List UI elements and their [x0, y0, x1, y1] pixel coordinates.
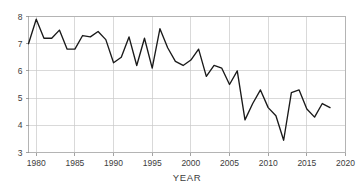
y-tick-label: 8 — [18, 12, 23, 22]
x-axis-tick-labels: 198019851990199520002005201020152020 — [27, 158, 355, 168]
horizontal-gridlines — [29, 17, 346, 126]
line-chart: 345678 198019851990199520002005201020152… — [0, 0, 360, 188]
y-axis-tick-labels: 345678 — [18, 12, 23, 158]
x-tick-label: 2015 — [297, 158, 316, 168]
data-series-line — [29, 19, 331, 140]
y-tick-label: 4 — [18, 120, 23, 130]
y-tick-label: 7 — [18, 39, 23, 49]
x-tick-label: 2010 — [259, 158, 278, 168]
x-tick-label: 2000 — [181, 158, 200, 168]
chart-canvas: 345678 198019851990199520002005201020152… — [0, 0, 360, 188]
x-tick-label: 1995 — [143, 158, 162, 168]
x-tick-label: 1985 — [65, 158, 84, 168]
x-tick-label: 1990 — [104, 158, 123, 168]
y-tick-label: 6 — [18, 66, 23, 76]
y-tick-label: 5 — [18, 93, 23, 103]
vertical-gridlines — [36, 17, 307, 153]
y-tick-label: 3 — [18, 148, 23, 158]
x-tick-label: 1980 — [27, 158, 46, 168]
x-tick-label: 2020 — [336, 158, 355, 168]
x-axis-title: YEAR — [173, 172, 201, 183]
x-tick-label: 2005 — [220, 158, 239, 168]
plot-frame — [29, 17, 346, 153]
